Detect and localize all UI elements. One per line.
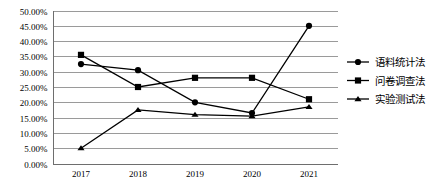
- x-axis-tick-label: 2017: [72, 169, 91, 179]
- y-axis-tick-label: 10.00%: [20, 129, 48, 139]
- square-marker: [192, 75, 198, 81]
- x-axis-tick-label: 2019: [186, 169, 205, 179]
- y-axis-tick-label: 5.00%: [24, 144, 48, 154]
- x-axis-tick-label: 2020: [243, 169, 262, 179]
- y-axis-tick-label: 15.00%: [20, 114, 48, 124]
- circle-marker: [192, 99, 198, 105]
- series-2: [78, 52, 312, 103]
- legend-label: 实验测试法: [375, 93, 425, 105]
- triangle-marker: [305, 104, 312, 109]
- square-marker: [355, 77, 361, 83]
- y-axis-tick-label: 50.00%: [20, 7, 48, 17]
- line-chart: 0.00%5.00%10.00%15.00%20.00%25.00%30.00%…: [0, 0, 432, 196]
- y-axis-tick-label: 0.00%: [24, 160, 48, 170]
- y-axis-tick-label: 40.00%: [20, 37, 48, 47]
- legend-item[interactable]: 实验测试法: [347, 93, 425, 105]
- square-marker: [249, 75, 255, 81]
- legend-label: 语料统计法: [375, 56, 425, 68]
- y-axis-tick-label: 25.00%: [20, 83, 48, 93]
- y-axis-tick-labels: 0.00%5.00%10.00%15.00%20.00%25.00%30.00%…: [20, 7, 48, 170]
- circle-marker: [355, 59, 361, 65]
- y-axis-tick-label: 45.00%: [20, 22, 48, 32]
- circle-marker: [306, 23, 312, 29]
- x-axis-tick-labels: 20172018201920202021: [72, 169, 318, 179]
- x-axis-tick-label: 2018: [129, 169, 148, 179]
- square-marker: [306, 96, 312, 102]
- y-axis-tick-label: 30.00%: [20, 68, 48, 78]
- y-axis-tick-label: 35.00%: [20, 52, 48, 62]
- series-3: [77, 104, 312, 150]
- y-axis-tick-label: 20.00%: [20, 98, 48, 108]
- circle-marker: [135, 67, 141, 73]
- chart-legend: 语料统计法问卷调查法实验测试法: [347, 56, 425, 105]
- legend-item[interactable]: 问卷调查法: [347, 75, 425, 87]
- square-marker: [135, 84, 141, 90]
- chart-canvas: 0.00%5.00%10.00%15.00%20.00%25.00%30.00%…: [0, 0, 432, 196]
- legend-item[interactable]: 语料统计法: [347, 56, 425, 68]
- circle-marker: [78, 61, 84, 67]
- square-marker: [78, 52, 84, 58]
- x-axis-tick-label: 2021: [300, 169, 318, 179]
- legend-label: 问卷调查法: [375, 75, 425, 87]
